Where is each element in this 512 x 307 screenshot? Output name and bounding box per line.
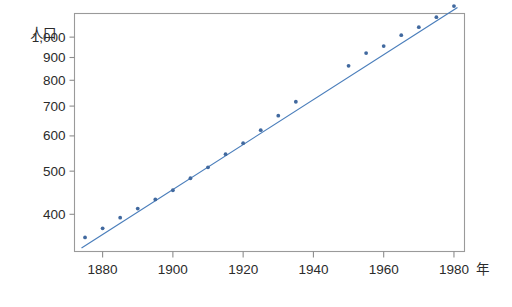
data-point (347, 64, 351, 68)
data-point (294, 100, 298, 104)
data-point (118, 216, 122, 220)
data-point (452, 4, 456, 8)
x-tick-label: 1940 (298, 262, 328, 277)
y-tick-label: 800 (43, 73, 66, 88)
data-point (101, 226, 105, 230)
y-tick-label: 600 (43, 128, 66, 143)
population-year-chart: 4005006007008009001,000 1880190019201940… (0, 0, 512, 307)
data-point (241, 141, 245, 145)
x-tick-label: 1900 (158, 262, 188, 277)
data-point (136, 207, 140, 211)
x-tick-label: 1920 (228, 262, 258, 277)
y-tick-label: 500 (43, 164, 66, 179)
y-axis-label: 人口 (30, 26, 56, 41)
y-tick-label: 900 (43, 50, 66, 65)
data-point (417, 25, 421, 29)
y-tick-label: 400 (43, 207, 66, 222)
data-point (171, 188, 175, 192)
data-point (259, 128, 263, 132)
data-point (83, 235, 87, 239)
chart-canvas: 4005006007008009001,000 1880190019201940… (0, 0, 512, 307)
data-point (382, 44, 386, 48)
data-point (434, 15, 438, 19)
x-tick-label: 1960 (369, 262, 399, 277)
data-point (189, 176, 193, 180)
data-point (364, 51, 368, 55)
x-tick-label: 1980 (439, 262, 469, 277)
data-point (153, 198, 157, 202)
x-axis-label: 年 (476, 262, 489, 277)
data-point (276, 114, 280, 118)
x-tick-label: 1880 (88, 262, 118, 277)
data-point (399, 33, 403, 37)
data-point (224, 152, 228, 156)
y-tick-label: 700 (43, 99, 66, 114)
data-point (206, 165, 210, 169)
